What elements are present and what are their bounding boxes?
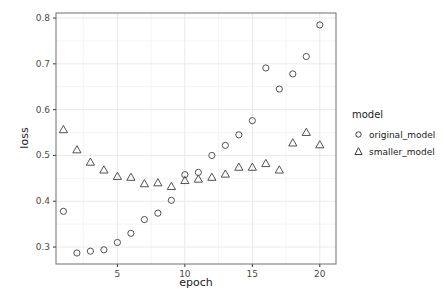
legend: model original_model smaller_model	[352, 109, 435, 160]
y-tick-label: 0.6	[36, 105, 51, 115]
y-tick-label: 0.3	[36, 242, 50, 252]
legend-item-smaller-model: smaller_model	[352, 143, 435, 160]
y-tick-label: 0.5	[36, 150, 50, 160]
plot-panel	[56, 13, 336, 264]
legend-item-original-model: original_model	[352, 126, 435, 143]
y-tick-label: 0.8	[36, 13, 51, 23]
legend-item-label: original_model	[369, 130, 435, 140]
y-tick-label: 0.4	[36, 196, 51, 206]
y-axis-title: loss	[18, 127, 31, 148]
triangle-marker-icon	[352, 145, 365, 158]
ggplot-scatter-figure: 51015200.30.40.50.60.70.8 loss epoch mod…	[0, 0, 443, 306]
x-axis-title: epoch	[56, 276, 336, 289]
legend-item-label: smaller_model	[369, 147, 435, 157]
legend-title: model	[352, 109, 435, 120]
circle-marker-icon	[352, 128, 365, 141]
y-tick-label: 0.7	[36, 59, 50, 69]
